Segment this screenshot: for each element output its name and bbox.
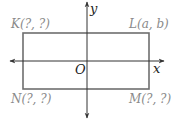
vertex-k-label: K(?, ?) [10,17,50,31]
origin-label: O [75,62,86,77]
vertex-m-label: M(?, ?) [128,92,171,106]
coordinate-diagram: y x O K(?, ?) L(a, b) M(?, ?) N(?, ?) [0,0,175,124]
vertex-l-label: L(a, b) [128,17,169,31]
x-axis-label: x [153,61,161,76]
vertex-n-label: N(?, ?) [10,92,52,106]
y-axis-label: y [89,1,98,16]
